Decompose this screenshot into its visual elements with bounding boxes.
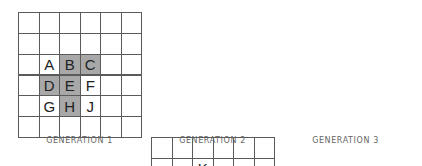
generation-caption: GENERATION 3 [284,136,407,145]
cell-label: D [44,77,55,94]
grid-cell-empty [100,12,122,34]
grid-cell-empty [121,12,143,34]
grid-cell-empty [151,158,173,166]
cell-label: F [86,77,95,94]
grid-cell-a: A [39,54,61,76]
cell-label: E [65,77,75,94]
grid-cell-empty [59,33,81,55]
grid-cell-k: K [192,158,214,166]
cell-label: K [198,160,208,166]
grid-cell-empty [121,75,143,97]
grid-cell-empty [121,95,143,117]
grid-cell-empty [18,33,40,55]
grid-cell-empty [121,116,143,138]
grid-cell-g: G [39,95,61,117]
grid-cell-empty [100,95,122,117]
grid-cell-empty [80,33,102,55]
grid-cell-d: D [39,75,61,97]
grid-cell-empty [59,116,81,138]
grid-cell-empty [254,158,276,166]
grid-cell-empty [100,54,122,76]
cell-label: B [65,56,75,73]
cell-label: A [44,56,54,73]
grid-cell-c: C [80,54,102,76]
cell-label: C [85,56,96,73]
grid-cell-empty [18,75,40,97]
cell-label: J [87,98,95,115]
grid-cell-empty [39,116,61,138]
grid-cell-empty [100,116,122,138]
generation-caption: GENERATION 2 [151,136,274,145]
generation-caption: GENERATION 1 [18,136,141,145]
grid-cell-empty [121,54,143,76]
grid-cell-empty [233,158,255,166]
grid-cell-empty [39,12,61,34]
grid-cell-empty [18,12,40,34]
grid-cell-empty [172,158,194,166]
grid-cell-empty [80,12,102,34]
cell-label: H [64,98,75,115]
grid-cell-empty [18,95,40,117]
grid-cell-empty [18,54,40,76]
cell-label: G [43,98,55,115]
grid-cell-empty [121,33,143,55]
grid-cell-empty [100,33,122,55]
grid-cell-empty [100,75,122,97]
grid-cell-empty [59,12,81,34]
grid-cell-empty [80,116,102,138]
grid-cell-h: H [59,95,81,117]
grid-cell-j: J [80,95,102,117]
grid-generation-1: ABCDEFGHJ [18,12,141,137]
grid-cell-e: E [59,75,81,97]
grid-cell-f: F [80,75,102,97]
grid-cell-empty [39,33,61,55]
grid-cell-b: B [59,54,81,76]
grid-cell-empty [213,158,235,166]
generations-diagram: ABCDEFGHJGENERATION 1KABCLDEFGHJGENERATI… [0,0,422,166]
grid-cell-empty [18,116,40,138]
